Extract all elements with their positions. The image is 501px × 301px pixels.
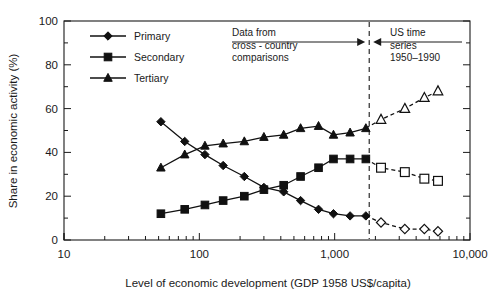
- chart-annotations: Data fromcross - countrycomparisonsUS ti…: [232, 27, 462, 63]
- x-axis-tick-labels: 101001,00010,000: [58, 248, 488, 260]
- data-point-secondary: [104, 53, 112, 61]
- y-tick-label: 40: [45, 146, 58, 158]
- data-point-primary: [433, 227, 442, 236]
- data-point-tertiary: [314, 122, 322, 130]
- data-point-primary: [314, 205, 322, 213]
- data-point-secondary: [201, 201, 209, 209]
- x-axis-title: Level of economic development (GDP 1958 …: [125, 277, 411, 289]
- data-point-tertiary: [157, 163, 165, 171]
- data-point-primary: [104, 32, 112, 40]
- data-point-secondary: [400, 168, 409, 177]
- annotation-line: Data from: [232, 27, 276, 38]
- legend-label: Primary: [134, 30, 171, 42]
- data-point-secondary: [219, 197, 227, 205]
- data-point-tertiary: [400, 103, 410, 112]
- data-point-secondary: [377, 163, 386, 172]
- x-tick-label: 10: [58, 248, 71, 260]
- data-point-tertiary: [420, 92, 430, 101]
- annotation-line: US time: [390, 27, 426, 38]
- data-point-secondary: [297, 173, 305, 181]
- y-axis-tick-labels: 020406080100: [39, 15, 58, 246]
- legend-item-primary: Primary: [90, 30, 171, 42]
- chart-legend: PrimarySecondaryTertiary: [90, 30, 185, 84]
- data-point-primary: [201, 150, 209, 158]
- y-tick-label: 100: [39, 15, 58, 27]
- legend-item-secondary: Secondary: [90, 51, 185, 63]
- x-tick-label: 100: [190, 248, 209, 260]
- data-point-secondary: [315, 164, 323, 172]
- data-point-primary: [400, 224, 409, 233]
- data-point-tertiary: [433, 86, 443, 95]
- chart-container: 101001,00010,000 020406080100 PrimarySec…: [0, 0, 501, 301]
- legend-label: Tertiary: [134, 72, 169, 84]
- data-point-primary: [296, 196, 304, 204]
- data-point-primary: [420, 224, 429, 233]
- annotation-cross-country: Data fromcross - countrycomparisons: [232, 27, 298, 63]
- data-point-primary: [346, 212, 354, 220]
- series-tertiary-us-time-series: [366, 86, 443, 128]
- legend-label: Secondary: [134, 51, 185, 63]
- data-point-secondary: [330, 155, 338, 163]
- annotation-line: comparisons: [232, 52, 289, 63]
- series-tertiary-cross-country: [157, 122, 370, 172]
- data-point-secondary: [280, 181, 288, 189]
- data-point-secondary: [241, 192, 249, 200]
- y-tick-label: 0: [52, 234, 58, 246]
- data-point-secondary: [181, 206, 189, 214]
- data-point-tertiary: [376, 114, 386, 123]
- economic-structure-chart: 101001,00010,000 020406080100 PrimarySec…: [0, 0, 501, 301]
- x-tick-label: 10,000: [452, 248, 487, 260]
- series-secondary-us-time-series: [366, 159, 443, 185]
- y-tick-label: 60: [45, 103, 58, 115]
- data-point-secondary: [157, 210, 165, 218]
- data-point-secondary: [260, 186, 268, 194]
- y-axis-title: Share in economic activity (%): [7, 53, 19, 208]
- x-axis-ticks: [64, 233, 470, 240]
- data-series-layer: [157, 86, 443, 236]
- series-secondary-cross-country: [157, 155, 370, 217]
- legend-item-tertiary: Tertiary: [90, 72, 169, 84]
- data-point-secondary: [420, 174, 429, 183]
- data-point-primary: [376, 218, 385, 227]
- annotation-us-time-series: US timeseries1950–1990: [390, 27, 440, 63]
- data-point-secondary: [434, 176, 443, 185]
- x-tick-label: 1,000: [320, 248, 349, 260]
- data-point-secondary: [362, 155, 370, 163]
- annotation-line: series: [390, 40, 417, 51]
- annotation-line: 1950–1990: [390, 52, 440, 63]
- data-point-primary: [219, 161, 227, 169]
- y-tick-label: 80: [45, 59, 58, 71]
- annotation-line: cross - country: [232, 40, 298, 51]
- series-primary-us-time-series: [366, 216, 443, 236]
- data-point-secondary: [346, 155, 354, 163]
- data-point-primary: [240, 172, 248, 180]
- data-point-primary: [329, 210, 337, 218]
- y-tick-label: 20: [45, 190, 58, 202]
